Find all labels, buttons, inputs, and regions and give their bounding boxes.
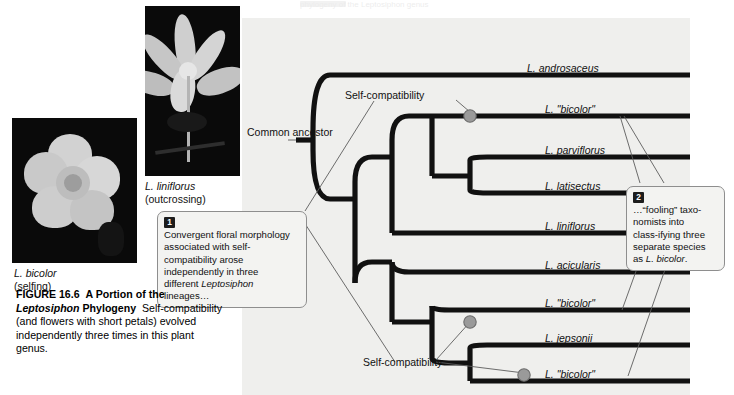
callout-2-badge: 2	[633, 192, 644, 203]
figure-title-part2: Phylogeny	[83, 302, 137, 314]
callout-box-2: 2…“fooling” taxo-nomists into class-ifyi…	[626, 186, 725, 271]
callout-1-badge: 1	[164, 217, 175, 228]
taxon-label-latisectus: L. latisectus	[545, 180, 600, 192]
taxon-label-androsaceus: L. androsaceus	[527, 62, 599, 74]
leader-callout1-to-selfcomp-lower	[300, 216, 395, 362]
figure-title-italic: Leptosiphon	[16, 302, 80, 314]
branch-jepsonii	[470, 345, 690, 348]
taxon-label-liniflorus: L. liniflorus	[545, 220, 595, 232]
branch-to-main-clade	[313, 150, 355, 199]
figure-number: FIGURE 16.6	[16, 288, 80, 300]
event-node-group	[464, 110, 530, 381]
taxon-label-jepsonii: L. jepsonii	[545, 332, 592, 344]
common-ancestor-label: Common ancestor	[247, 126, 333, 138]
callout-2-italic: L. bicolor	[646, 253, 685, 264]
branch-parviflorus	[470, 157, 690, 160]
taxon-label-parviflorus: L. parviflorus	[545, 144, 605, 156]
common-ancestor-text: Common ancestor	[247, 126, 333, 138]
taxon-label-bicolor-2: L. "bicolor"	[545, 297, 595, 309]
self-compatibility-label-lower: Self-compatibility	[363, 356, 442, 368]
figure-caption: FIGURE 16.6 A Portion of the Leptosiphon…	[16, 288, 228, 356]
figure-title-part1: A Portion of the	[85, 288, 164, 300]
self-compatibility-label-upper: Self-compatibility	[345, 89, 424, 101]
callout-2-text-after: .	[685, 253, 688, 264]
branch-lower-clade	[355, 262, 392, 283]
event-node-upper	[464, 110, 476, 122]
figure-root: phylogeny of the Leptosiphon genus L. li…	[0, 0, 734, 395]
leader-selfcomp-lower-b	[436, 362, 524, 373]
branch-upper-clade	[355, 157, 392, 182]
branch-androsaceus	[313, 75, 690, 130]
taxon-label-bicolor-1: L. "bicolor"	[545, 103, 595, 115]
taxon-label-bicolor-3: L. "bicolor"	[545, 368, 595, 380]
leader-selfcomp-lower-a	[436, 322, 470, 360]
event-node-middle	[464, 316, 476, 328]
branch-upper-inner	[392, 116, 432, 140]
taxon-label-acicularis: L. acicularis	[545, 259, 600, 271]
event-node-lower	[518, 369, 530, 381]
